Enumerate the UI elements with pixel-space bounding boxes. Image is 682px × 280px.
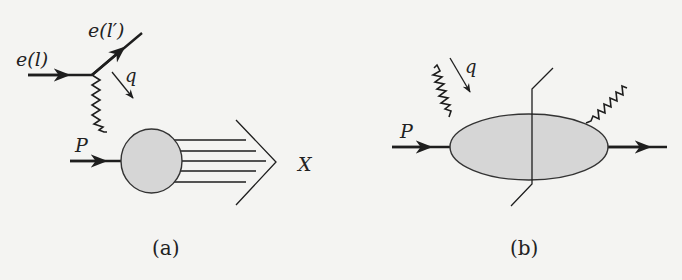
- outgoing-electron-label: e(l′): [88, 19, 124, 41]
- final-state-lines: [170, 140, 266, 182]
- photon-momentum-label: q: [465, 56, 477, 77]
- panel-a-caption: (a): [152, 236, 180, 260]
- panel-b: q P (b): [392, 56, 667, 260]
- incoming-electron-label: e(l): [16, 48, 48, 70]
- proton-label: P: [399, 120, 414, 142]
- virtual-photon-line: [92, 75, 107, 132]
- feynman-diagrams: e(l) e(l′) q P X (a) q P (b): [0, 0, 682, 280]
- panel-a: e(l) e(l′) q P X (a): [16, 19, 313, 260]
- final-state-chevron: [236, 120, 276, 205]
- photon-momentum-label: q: [125, 65, 137, 86]
- final-state-label: X: [296, 153, 313, 175]
- outgoing-photon-line: [586, 86, 627, 123]
- panel-b-caption: (b): [510, 236, 538, 260]
- hadronic-blob: [121, 129, 182, 193]
- forward-amplitude-blob: [450, 114, 608, 180]
- incoming-photon-line: [433, 65, 451, 117]
- proton-label: P: [74, 134, 89, 156]
